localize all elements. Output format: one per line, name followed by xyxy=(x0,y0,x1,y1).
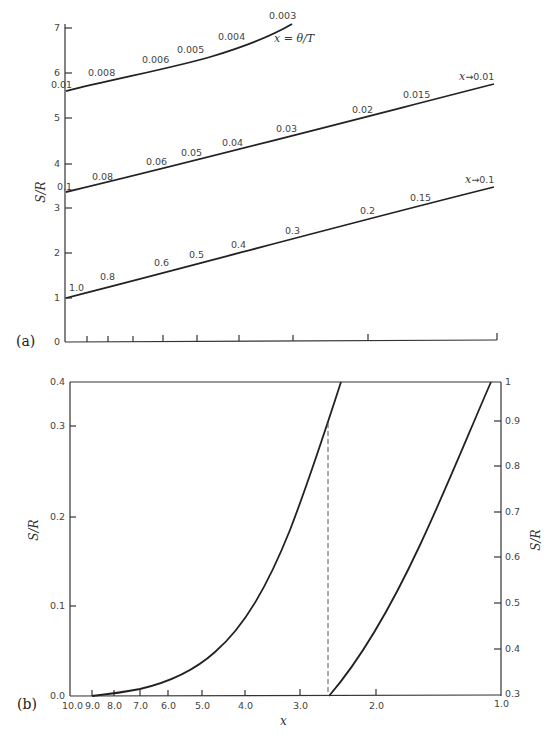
y-tick-right: 0.4 xyxy=(505,643,520,654)
curve-label: 0.1 xyxy=(57,181,72,192)
panel-b-label: (b) xyxy=(17,696,37,712)
curve-end-label: x→0.01 xyxy=(459,70,494,83)
panel-a-top-curve-labels: 0.01 0.008 0.006 0.005 0.004 0.003 x = θ… xyxy=(51,10,316,90)
curve-label: 0.6 xyxy=(154,257,169,268)
y-tick-right: 0.5 xyxy=(505,597,520,608)
y-tick-right: 0.8 xyxy=(505,460,520,471)
curve-label: 0.003 xyxy=(269,10,296,21)
x-tick: 2.0 xyxy=(369,700,384,711)
panel-b-y-label-right: S/R xyxy=(529,529,543,550)
curve-end-label: x→0.1 xyxy=(465,173,494,186)
y-tick-0: 0 xyxy=(54,336,60,347)
y-tick-6: 6 xyxy=(54,67,60,78)
panel-a-curve-bottom xyxy=(66,187,494,298)
curve-label: 0.05 xyxy=(181,147,202,158)
y-tick-5: 5 xyxy=(54,112,60,123)
curve-label: 0.3 xyxy=(285,225,300,236)
panel-b-right-ticks xyxy=(494,421,501,649)
x-tick: 3.0 xyxy=(293,700,308,711)
curve-title: x = θ/T xyxy=(274,32,316,45)
panel-a-y-label: S/R xyxy=(34,181,48,202)
y-tick-2: 2 xyxy=(54,247,60,258)
x-tick: 10.0 xyxy=(62,700,83,711)
curve-label: 0.005 xyxy=(177,44,204,55)
y-tick-left: 0.3 xyxy=(50,420,65,431)
y-tick-right: 0.7 xyxy=(505,506,520,517)
y-tick-right: 0.9 xyxy=(505,415,520,426)
panel-a-middle-curve-labels: 0.1 0.08 0.06 0.05 0.04 0.03 0.02 0.015 … xyxy=(57,70,494,192)
x-tick: 8.0 xyxy=(107,700,122,711)
curve-label: 0.01 xyxy=(51,79,72,90)
panel-b-left-ticks xyxy=(70,426,76,606)
y-tick-4: 4 xyxy=(54,158,60,169)
panel-a: 0 1 2 3 4 5 6 7 S/R (a) xyxy=(16,10,497,349)
y-tick-right: 1 xyxy=(505,376,511,387)
panel-a-curve-top xyxy=(66,24,292,91)
curve-label: 1.0 xyxy=(69,282,84,293)
x-tick: 5.0 xyxy=(195,700,210,711)
x-tick: 1.0 xyxy=(494,698,509,709)
panel-b: 0.0 0.1 0.2 0.3 0.4 0.3 0.4 0.5 0.6 0.7 … xyxy=(17,376,543,728)
curve-label: 0.004 xyxy=(218,31,245,42)
figure: 0 1 2 3 4 5 6 7 S/R (a) xyxy=(0,0,547,737)
curve-label: 0.2 xyxy=(360,205,375,216)
panel-a-label: (a) xyxy=(16,333,35,349)
curve-label: 0.15 xyxy=(410,192,431,203)
y-tick-left: 0.1 xyxy=(50,600,65,611)
x-tick: 9.0 xyxy=(85,700,100,711)
x-tick: 4.0 xyxy=(238,700,253,711)
curve-label: 0.015 xyxy=(403,89,430,100)
y-tick-1: 1 xyxy=(54,292,60,303)
curve-label: 0.8 xyxy=(100,271,115,282)
panel-a-y-ticks xyxy=(65,28,72,298)
y-tick-7: 7 xyxy=(54,22,60,33)
panel-a-curve-middle xyxy=(66,84,494,192)
panel-b-y-label-left: S/R xyxy=(27,519,41,540)
curve-label: 0.04 xyxy=(222,137,243,148)
curve-label: 0.08 xyxy=(92,171,113,182)
panel-b-left-tick-labels: 0.0 0.1 0.2 0.3 0.4 xyxy=(50,376,65,701)
curve-label: 0.02 xyxy=(352,104,373,115)
curve-label: 0.5 xyxy=(189,249,204,260)
panel-b-curve-right-scale xyxy=(329,382,491,696)
panel-b-x-tick-labels: 10.0 9.0 8.0 7.0 6.0 5.0 4.0 3.0 2.0 1.0 xyxy=(62,698,509,711)
curve-label: 0.06 xyxy=(146,156,167,167)
curve-label: 0.008 xyxy=(88,67,115,78)
curve-label: 0.4 xyxy=(231,239,246,250)
y-tick-right: 0.6 xyxy=(505,551,520,562)
panel-b-curve-left-scale xyxy=(92,382,341,696)
panel-b-right-tick-labels: 0.3 0.4 0.5 0.6 0.7 0.8 0.9 1 xyxy=(505,376,520,699)
y-tick-3: 3 xyxy=(54,202,60,213)
y-tick-left: 0.2 xyxy=(50,511,65,522)
curve-label: 0.03 xyxy=(276,123,297,134)
x-tick: 6.0 xyxy=(161,700,176,711)
curve-label: 0.006 xyxy=(142,54,169,65)
x-tick: 7.0 xyxy=(133,700,148,711)
panel-a-bottom-curve-labels: 1.0 0.8 0.6 0.5 0.4 0.3 0.2 0.15 x→0.1 xyxy=(69,173,494,293)
panel-a-x-axis xyxy=(65,340,497,342)
y-tick-left: 0.4 xyxy=(50,376,65,387)
panel-b-x-label: x xyxy=(280,714,287,728)
panel-b-x-axis xyxy=(70,695,501,696)
